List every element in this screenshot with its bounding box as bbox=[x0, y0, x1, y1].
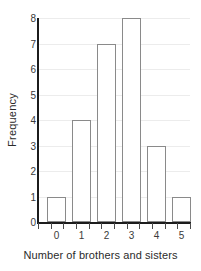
tick-mark bbox=[139, 223, 140, 229]
bar-0 bbox=[47, 197, 66, 223]
y-tick-label: 6 bbox=[20, 64, 36, 75]
tick-mark bbox=[38, 223, 39, 229]
x-tick-label: 5 bbox=[179, 230, 185, 241]
bar-5 bbox=[172, 197, 191, 223]
y-tick-label: 4 bbox=[20, 115, 36, 126]
tick-mark bbox=[165, 223, 166, 229]
tick-mark bbox=[190, 223, 191, 229]
tick-mark bbox=[63, 223, 64, 229]
bar-3 bbox=[122, 18, 141, 222]
tick-mark bbox=[89, 223, 90, 229]
x-tick-label: 3 bbox=[129, 230, 135, 241]
x-tick-label: 2 bbox=[104, 230, 110, 241]
tick-mark bbox=[114, 223, 115, 229]
gridline bbox=[38, 18, 190, 19]
tick-mark bbox=[127, 223, 128, 229]
y-axis-tick-labels: 0 1 2 3 4 5 6 7 8 bbox=[18, 0, 36, 271]
y-tick-label: 0 bbox=[20, 217, 36, 228]
histogram-chart: Frequency 0 1 2 3 4 5 6 7 8 bbox=[0, 0, 201, 271]
bar-1 bbox=[72, 120, 91, 222]
y-axis-line bbox=[37, 18, 39, 223]
tick-mark bbox=[51, 223, 52, 229]
bar-2 bbox=[97, 44, 116, 223]
x-tick-label: 4 bbox=[154, 230, 160, 241]
y-tick-label: 2 bbox=[20, 166, 36, 177]
tick-mark bbox=[152, 223, 153, 229]
x-tick-label: 1 bbox=[79, 230, 85, 241]
y-axis-label-text: Frequency bbox=[6, 93, 18, 147]
plot-area bbox=[38, 18, 190, 222]
bar-4 bbox=[147, 146, 166, 223]
y-tick-label: 3 bbox=[20, 140, 36, 151]
tick-mark bbox=[76, 223, 77, 229]
tick-mark bbox=[101, 223, 102, 229]
y-tick-label: 8 bbox=[20, 13, 36, 24]
x-tick-label: 0 bbox=[54, 230, 60, 241]
x-axis-label: Number of brothers and sisters bbox=[0, 249, 201, 261]
y-tick-label: 1 bbox=[20, 191, 36, 202]
tick-mark bbox=[177, 223, 178, 229]
y-tick-label: 7 bbox=[20, 38, 36, 49]
y-tick-label: 5 bbox=[20, 89, 36, 100]
